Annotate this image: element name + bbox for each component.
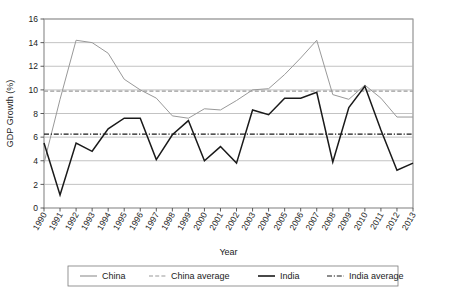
x-tick-label-1997: 1997 bbox=[143, 210, 161, 232]
y-tick-label: 0 bbox=[33, 203, 38, 213]
y-tick-label: 14 bbox=[29, 38, 39, 48]
legend-label-india-average[interactable]: India average bbox=[349, 271, 404, 281]
x-tick-label-2003: 2003 bbox=[239, 210, 257, 232]
x-tick-label-2004: 2004 bbox=[255, 210, 273, 232]
x-tick-label-2007: 2007 bbox=[303, 210, 321, 232]
x-tick-label-1993: 1993 bbox=[79, 210, 97, 232]
y-tick-label: 8 bbox=[33, 109, 38, 119]
y-tick-label: 12 bbox=[29, 61, 39, 71]
x-tick-label-2002: 2002 bbox=[223, 210, 241, 232]
x-tick-label-2008: 2008 bbox=[319, 210, 337, 232]
legend-label-india[interactable]: India bbox=[280, 271, 300, 281]
x-tick-label-2006: 2006 bbox=[287, 210, 305, 232]
x-tick-label-2001: 2001 bbox=[207, 210, 225, 232]
x-tick-label-2013: 2013 bbox=[400, 210, 418, 232]
y-tick-label: 2 bbox=[33, 180, 38, 190]
x-tick-label-1994: 1994 bbox=[95, 210, 113, 232]
x-tick-label-2009: 2009 bbox=[335, 210, 353, 232]
x-tick-label-1998: 1998 bbox=[159, 210, 177, 232]
x-tick-label-1999: 1999 bbox=[175, 210, 193, 232]
x-tick-label-1995: 1995 bbox=[111, 210, 129, 232]
x-tick-label-2000: 2000 bbox=[191, 210, 209, 232]
chart-canvas: 0246810121416199019911992199319941995199… bbox=[0, 0, 449, 297]
gdp-growth-line-chart: 0246810121416199019911992199319941995199… bbox=[0, 0, 449, 297]
legend-label-china[interactable]: China bbox=[102, 271, 126, 281]
y-tick-label: 6 bbox=[33, 132, 38, 142]
y-axis-title: GDP Growth (%) bbox=[5, 80, 15, 147]
x-tick-label-2011: 2011 bbox=[368, 210, 386, 231]
x-tick-label-1992: 1992 bbox=[63, 210, 81, 232]
x-tick-label-1991: 1991 bbox=[47, 210, 65, 232]
legend-label-china-average[interactable]: China average bbox=[171, 271, 230, 281]
x-tick-label-2005: 2005 bbox=[271, 210, 289, 232]
x-tick-label-1996: 1996 bbox=[127, 210, 145, 232]
y-tick-label: 10 bbox=[29, 85, 39, 95]
x-axis-title: Year bbox=[219, 247, 237, 257]
y-tick-label: 16 bbox=[29, 14, 39, 24]
y-tick-label: 4 bbox=[33, 156, 38, 166]
x-tick-label-1990: 1990 bbox=[31, 210, 49, 232]
x-tick-label-2010: 2010 bbox=[351, 210, 369, 232]
x-tick-label-2012: 2012 bbox=[384, 210, 402, 232]
